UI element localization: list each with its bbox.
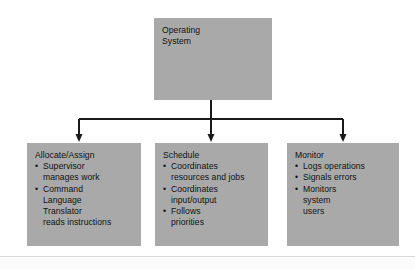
node-schedule: Schedule Coordinates resources and jobs … bbox=[155, 143, 268, 246]
arrowhead-schedule-icon bbox=[208, 134, 215, 142]
arrowhead-monitor-icon bbox=[340, 134, 347, 142]
node-monitor-title: Monitor bbox=[295, 150, 399, 161]
node-monitor-list: Logs operations Signals errors Monitors … bbox=[295, 161, 399, 217]
list-item: Supervisor manages work bbox=[35, 161, 141, 183]
node-monitor: Monitor Logs operations Signals errors M… bbox=[287, 143, 399, 246]
node-allocate-assign-title: Allocate/Assign bbox=[35, 150, 141, 161]
arrowhead-allocate-icon bbox=[76, 134, 83, 142]
list-item: Signals errors bbox=[295, 172, 399, 183]
node-monitor-content: Monitor Logs operations Signals errors M… bbox=[287, 143, 399, 217]
list-item: Coordinates input/output bbox=[163, 184, 268, 206]
list-item: Command Language Translator bbox=[35, 184, 141, 218]
node-operating-system-content: Operating System bbox=[154, 18, 272, 47]
list-item: Logs operations bbox=[295, 161, 399, 172]
node-operating-system-title: Operating System bbox=[162, 25, 272, 47]
list-item: Coordinates resources and jobs bbox=[163, 161, 268, 183]
node-allocate-assign-list: Supervisor manages work Command Language… bbox=[35, 161, 141, 228]
node-schedule-content: Schedule Coordinates resources and jobs … bbox=[155, 143, 268, 228]
footer-band bbox=[0, 257, 415, 269]
node-allocate-assign: Allocate/Assign Supervisor manages work … bbox=[27, 143, 141, 246]
node-schedule-title: Schedule bbox=[163, 150, 268, 161]
node-allocate-assign-content: Allocate/Assign Supervisor manages work … bbox=[27, 143, 141, 228]
list-item: Monitors system users bbox=[295, 184, 399, 218]
footer-divider bbox=[0, 256, 415, 257]
diagram-canvas: Operating System Allocate/Assign Supervi… bbox=[0, 0, 415, 269]
node-schedule-list: Coordinates resources and jobs Coordinat… bbox=[163, 161, 268, 228]
list-item: reads instructions bbox=[35, 217, 141, 228]
node-operating-system: Operating System bbox=[154, 18, 272, 100]
list-item: Follows priorities bbox=[163, 206, 268, 228]
